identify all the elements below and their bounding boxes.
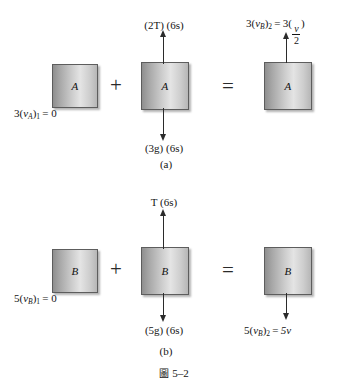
row-b-up-arrow-head-icon (160, 209, 166, 216)
row-a-initial-momentum-label: 3(vA)1 = 0 (14, 107, 57, 121)
row-b-up-arrow-shaft (163, 215, 164, 249)
row-b-final-arrow-head-icon (283, 313, 289, 320)
row-a-block-final: A (264, 62, 312, 110)
row-a-down-arrow-head-icon (160, 134, 166, 141)
figure-caption: 圖 5–2 (159, 365, 189, 380)
row-a-top-force-label: (2T) (6s) (144, 19, 183, 31)
row-a-caption: (a) (160, 158, 172, 170)
row-b-block-impulse: B (141, 247, 189, 295)
row-a-block-final-label: A (285, 81, 292, 92)
row-a-plus-operator: + (110, 75, 122, 96)
row-b-block-initial-label: B (72, 266, 79, 277)
row-a-bottom-force-label: (3g) (6s) (145, 142, 183, 154)
row-a-up-arrow-shaft (163, 36, 164, 64)
row-b-down-arrow-head-icon (160, 315, 166, 322)
row-b-top-force-label: T (6s) (151, 196, 177, 208)
row-b-initial-momentum-label: 5(vB)1 = 0 (14, 292, 57, 306)
row-a-block-initial-label: A (72, 81, 79, 92)
row-a-block-impulse-label: A (162, 81, 169, 92)
row-b-final-arrow-shaft (286, 293, 287, 315)
figure-caption-number: 5–2 (172, 367, 189, 379)
row-a-equals-operator: = (222, 76, 234, 97)
row-b-block-initial: B (52, 249, 98, 293)
row-b-final-momentum-label: 5(vB)2 = 5v (244, 324, 291, 338)
row-b-caption: (b) (160, 345, 173, 357)
row-b-block-final-label: B (285, 266, 292, 277)
row-a-block-initial: A (52, 64, 98, 108)
row-a-down-arrow-shaft (163, 108, 164, 136)
figure-canvas: A 3(vA)1 = 0 + A (2T) (6s) (3g) (6s) = A… (0, 0, 348, 384)
row-a-block-impulse: A (141, 62, 189, 110)
row-b-bottom-force-label: (5g) (6s) (145, 324, 183, 336)
row-b-equals-operator: = (222, 260, 234, 281)
row-b-plus-operator: + (110, 259, 122, 280)
row-a-final-momentum-label: 3(vB)2 = 3(v2) (246, 17, 305, 46)
row-b-block-final: B (264, 247, 312, 295)
figure-caption-symbol: 圖 (159, 365, 169, 380)
row-b-down-arrow-shaft (163, 293, 164, 317)
row-b-block-impulse-label: B (162, 266, 169, 277)
